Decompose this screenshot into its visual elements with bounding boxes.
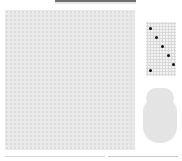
status-bar-left — [5, 156, 105, 157]
game-board[interactable] — [5, 10, 135, 150]
game-piece-icon — [161, 45, 164, 48]
jar-body-icon — [143, 98, 177, 143]
piece-preview-grid — [146, 22, 176, 76]
piece-jar[interactable] — [143, 88, 177, 143]
title-bar-shadow — [55, 2, 136, 4]
game-piece-icon — [172, 63, 175, 66]
jar-lid-icon — [146, 88, 174, 104]
game-piece-icon — [155, 36, 158, 39]
game-piece-icon — [149, 69, 152, 72]
game-piece-icon — [167, 54, 170, 57]
game-piece-icon — [149, 27, 152, 30]
status-bar-right — [108, 156, 178, 157]
